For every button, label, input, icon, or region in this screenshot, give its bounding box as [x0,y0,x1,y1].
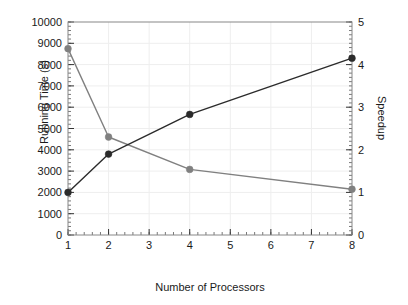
chart-plot-area: 0100020003000400050006000700080009000100… [0,0,408,305]
grid-lines [68,22,352,235]
svg-text:0: 0 [358,229,364,241]
svg-text:0: 0 [56,229,62,241]
chart-figure: 0100020003000400050006000700080009000100… [0,0,408,305]
svg-text:5: 5 [227,239,233,251]
svg-text:4: 4 [358,59,364,71]
svg-text:2: 2 [358,144,364,156]
svg-text:6: 6 [268,239,274,251]
y-axis-left-title: Running Time (s) [38,42,50,162]
svg-text:1: 1 [65,239,71,251]
svg-text:8: 8 [349,239,355,251]
svg-text:4: 4 [187,239,193,251]
svg-text:2: 2 [106,239,112,251]
tick-labels: 0100020003000400050006000700080009000100… [31,16,364,251]
svg-text:5: 5 [358,16,364,28]
svg-text:3: 3 [146,239,152,251]
svg-text:10000: 10000 [31,16,62,28]
svg-text:1: 1 [358,186,364,198]
svg-text:3000: 3000 [38,165,62,177]
svg-text:7: 7 [308,239,314,251]
x-axis-title: Number of Processors [68,281,352,293]
svg-text:1000: 1000 [38,208,62,220]
svg-text:2000: 2000 [38,186,62,198]
y-axis-right-title: Speedup [376,58,388,178]
svg-text:3: 3 [358,101,364,113]
